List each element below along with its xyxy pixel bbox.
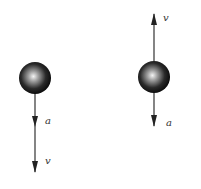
right-acceleration-label: a	[166, 117, 172, 128]
left-acceleration-arrowhead-icon	[32, 116, 38, 127]
right-acceleration-arrowhead-icon	[151, 115, 157, 127]
right-velocity-label: v	[163, 12, 169, 23]
motion-diagram: a v v a	[0, 0, 201, 189]
right-ball	[138, 61, 170, 93]
left-object: a v	[19, 62, 51, 173]
left-velocity-arrowhead-icon	[32, 161, 38, 173]
left-ball	[19, 62, 51, 94]
right-velocity-arrowhead-icon	[151, 13, 157, 25]
left-acceleration-label: a	[45, 115, 51, 126]
left-velocity-label: v	[45, 155, 51, 166]
right-object: v a	[138, 12, 172, 128]
